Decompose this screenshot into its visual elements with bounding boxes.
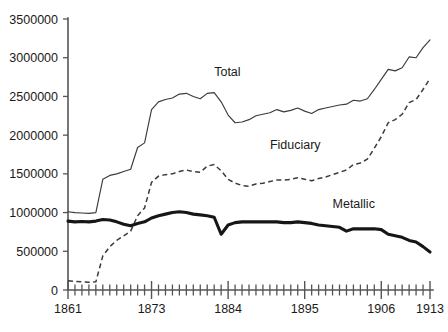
series-line-fiduciary [68, 79, 430, 283]
y-tick-label: 1000000 [9, 206, 58, 220]
x-tick-label: 1895 [291, 302, 319, 316]
series-line-metallic [68, 212, 430, 252]
chart-canvas: 0500000100000015000002000000250000030000… [0, 0, 448, 332]
y-tick-label: 2000000 [9, 129, 58, 143]
series-label-metallic: Metallic [333, 197, 375, 211]
y-tick-label: 500000 [16, 245, 58, 259]
y-tick-label: 1500000 [9, 167, 58, 181]
series-label-fiduciary: Fiduciary [270, 138, 321, 152]
x-tick-label: 1906 [367, 302, 395, 316]
x-tick-label: 1884 [214, 302, 242, 316]
x-axis-ticks: 186118731884189519061913 [54, 281, 444, 316]
y-axis-ticks: 0500000100000015000002000000250000030000… [9, 13, 68, 298]
x-tick-label: 1861 [54, 302, 82, 316]
series-label-total: Total [214, 65, 240, 79]
y-tick-label: 3500000 [9, 13, 58, 27]
line-chart: 0500000100000015000002000000250000030000… [0, 0, 448, 332]
y-tick-label: 2500000 [9, 90, 58, 104]
series-annotations: TotalFiduciaryMetallic [214, 65, 375, 211]
x-tick-label: 1873 [138, 302, 166, 316]
series-line-total [68, 40, 430, 213]
y-tick-label: 3000000 [9, 51, 58, 65]
x-tick-label: 1913 [416, 302, 444, 316]
y-tick-label: 0 [51, 284, 58, 298]
